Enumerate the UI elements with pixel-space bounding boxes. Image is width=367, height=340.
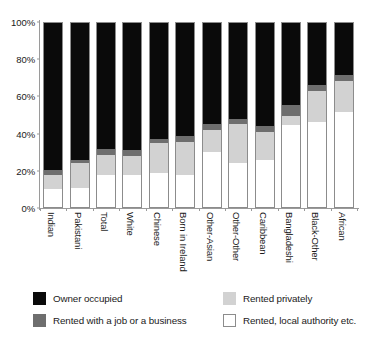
bar-other-other[interactable]: [228, 22, 248, 208]
x-axis-label-white: White: [125, 212, 136, 236]
x-axis-tick-mark: [304, 208, 305, 211]
bar-segment: [96, 149, 116, 155]
bar-segment: [281, 105, 301, 116]
bar-segment: [43, 175, 63, 189]
bar-segment: [202, 22, 222, 124]
bar-segment: [307, 22, 327, 85]
legend-label: Owner occupied: [53, 293, 122, 304]
bar-bangladeshi[interactable]: [281, 22, 301, 208]
x-axis-label-born-in-ireland: Born in Ireland: [178, 212, 189, 272]
bar-segment: [70, 163, 90, 187]
bar-other-asian[interactable]: [202, 22, 222, 208]
bar-segment: [228, 22, 248, 119]
x-axis-tick-mark: [172, 208, 173, 211]
bar-black-other[interactable]: [307, 22, 327, 208]
bar-segment: [122, 150, 142, 156]
x-axis-label-caribbean: Caribbean: [258, 212, 269, 255]
bar-segment: [96, 155, 116, 175]
bar-caribbean[interactable]: [255, 22, 275, 208]
bar-segment: [149, 173, 169, 208]
bar-segment: [149, 22, 169, 139]
bar-chinese[interactable]: [149, 22, 169, 208]
legend-item[interactable]: Rented privately: [223, 292, 312, 305]
x-axis-tick-mark: [331, 208, 332, 211]
bar-segment: [43, 22, 63, 170]
x-axis-tick-mark: [251, 208, 252, 211]
bar-segment: [122, 22, 142, 150]
x-axis-tick-mark: [93, 208, 94, 211]
bar-african[interactable]: [334, 22, 354, 208]
x-axis-label-total: Total: [99, 212, 110, 231]
bar-segment: [228, 124, 248, 163]
bar-segment: [175, 136, 195, 142]
bar-segment: [228, 119, 248, 125]
bar-segment: [307, 85, 327, 91]
legend-swatch-icon: [33, 314, 46, 327]
bar-segment: [202, 130, 222, 152]
bar-segment: [43, 189, 63, 208]
bar-segment: [96, 175, 116, 208]
x-axis-tick-mark: [199, 208, 200, 211]
bar-segment: [281, 116, 301, 125]
x-axis-tick-mark: [146, 208, 147, 211]
legend-label: Rented, local authority etc.: [243, 315, 356, 326]
x-axis-tick-mark: [119, 208, 120, 211]
x-axis-tick-mark: [278, 208, 279, 211]
bar-segment: [122, 156, 142, 175]
bar-segment: [70, 160, 90, 164]
x-axis-label-african: African: [337, 212, 348, 241]
x-axis-label-black-other: Black-Other: [310, 212, 321, 261]
bar-total[interactable]: [96, 22, 116, 208]
x-axis-tick-mark: [66, 208, 67, 211]
bar-segment: [70, 22, 90, 160]
x-axis-label-other-other: Other-Other: [231, 212, 242, 261]
bar-segment: [175, 142, 195, 175]
x-axis-tick-mark: [40, 208, 41, 211]
bar-segment: [334, 81, 354, 113]
legend-item[interactable]: Rented, local authority etc.: [223, 314, 356, 327]
legend-swatch-icon: [33, 292, 46, 305]
bar-segment: [255, 160, 275, 208]
bar-segment: [175, 175, 195, 208]
bar-segment: [307, 91, 327, 123]
bar-indian[interactable]: [43, 22, 63, 208]
bar-segment: [175, 22, 195, 136]
x-axis-label-other-asian: Other-Asian: [205, 212, 216, 261]
x-axis-label-chinese: Chinese: [152, 212, 163, 246]
bar-segment: [281, 125, 301, 208]
bar-segment: [307, 122, 327, 208]
bar-segment: [334, 112, 354, 208]
bar-segment: [96, 22, 116, 149]
y-axis-tick-mark: [37, 133, 40, 134]
bar-segment: [202, 124, 222, 130]
bar-segment: [228, 163, 248, 208]
bar-segment: [255, 22, 275, 126]
legend-label: Rented with a job or a business: [53, 315, 187, 326]
bar-segment: [281, 22, 301, 105]
bar-pakistani[interactable]: [70, 22, 90, 208]
bar-born-in-ireland[interactable]: [175, 22, 195, 208]
legend-swatch-icon: [223, 314, 236, 327]
y-axis-tick-label: 100%: [11, 17, 40, 28]
bar-segment: [70, 188, 90, 208]
x-axis-tick-mark: [357, 208, 358, 211]
bar-segment: [149, 143, 169, 173]
y-axis-tick-mark: [37, 96, 40, 97]
bar-segment: [149, 139, 169, 143]
x-axis-label-indian: Indian: [46, 212, 57, 237]
x-axis-label-pakistani: Pakistani: [73, 212, 84, 249]
bar-segment: [334, 75, 354, 81]
legend-item[interactable]: Owner occupied: [33, 292, 122, 305]
bar-white[interactable]: [122, 22, 142, 208]
x-axis-label-bangladeshi: Bangladeshi: [284, 212, 295, 263]
y-axis-tick-mark: [37, 59, 40, 60]
x-axis-tick-mark: [225, 208, 226, 211]
legend-item[interactable]: Rented with a job or a business: [33, 314, 187, 327]
bar-segment: [43, 170, 63, 176]
chart-legend: Owner occupiedRented privatelyRented wit…: [33, 292, 363, 334]
y-axis-tick-mark: [37, 22, 40, 23]
stacked-bar-chart: 0%20%40%60%80%100% IndianPakistaniTotalW…: [0, 0, 367, 340]
legend-swatch-icon: [223, 292, 236, 305]
bar-segment: [202, 152, 222, 208]
bar-segment: [122, 175, 142, 208]
